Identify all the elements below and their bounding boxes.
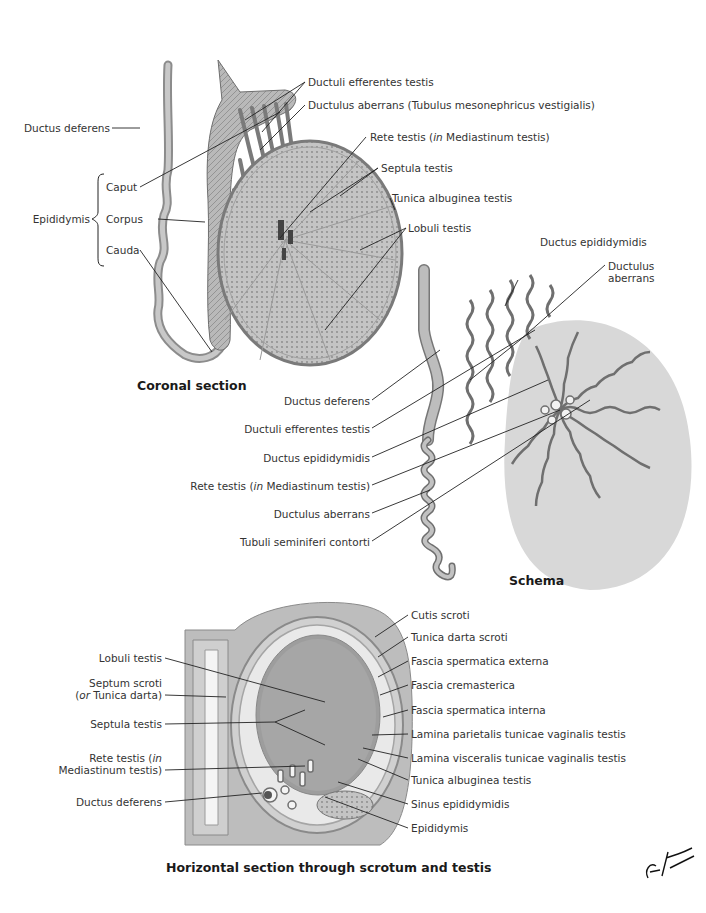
schema-illustration bbox=[424, 270, 692, 590]
label-h-lobuli-testis: Lobuli testis bbox=[40, 652, 162, 664]
label-schema-ductus-epididymidis: Ductus epididymidis bbox=[180, 452, 370, 464]
label-ductulus-aberrans-top-2: aberrans bbox=[608, 272, 655, 284]
label-septula-testis: Septula testis bbox=[381, 162, 453, 174]
label-ductus-epididymidis-top: Ductus epididymidis bbox=[540, 236, 647, 248]
caption-schema: Schema bbox=[509, 573, 564, 588]
label-ductulus-aberrans-top-1: Ductulus bbox=[608, 260, 654, 272]
horizontal-section-illustration bbox=[185, 602, 412, 845]
epididymis-brace bbox=[92, 174, 104, 266]
label-schema-ductuli-efferentes: Ductuli efferentes testis bbox=[180, 423, 370, 435]
label-tunica-darta-scroti: Tunica darta scroti bbox=[411, 631, 508, 643]
label-h-rete-testis-1: Rete testis (in bbox=[20, 752, 162, 764]
label-schema-ductus-deferens: Ductus deferens bbox=[180, 395, 370, 407]
netter-signature bbox=[647, 848, 694, 878]
label-h-septum-scroti-1: Septum scroti bbox=[40, 677, 162, 689]
label-h-septula-testis: Septula testis bbox=[40, 718, 162, 730]
label-schema-rete-testis: Rete testis (in Mediastinum testis) bbox=[150, 480, 370, 492]
label-lamina-parietalis: Lamina parietalis tunicae vaginalis test… bbox=[411, 728, 626, 740]
label-schema-ductulus-aberrans: Ductulus aberrans bbox=[180, 508, 370, 520]
label-h-epididymis: Epididymis bbox=[411, 822, 468, 834]
label-fascia-cremasterica: Fascia cremasterica bbox=[411, 679, 515, 691]
caption-horizontal-section: Horizontal section through scrotum and t… bbox=[166, 860, 492, 875]
label-h-ductus-deferens: Ductus deferens bbox=[40, 796, 162, 808]
label-cauda: Cauda bbox=[106, 244, 140, 256]
label-lobuli-testis: Lobuli testis bbox=[408, 222, 471, 234]
label-fascia-spermatica-externa: Fascia spermatica externa bbox=[411, 655, 549, 667]
label-tunica-albuginea-testis: Tunica albuginea testis bbox=[392, 192, 512, 204]
label-lamina-visceralis: Lamina visceralis tunicae vaginalis test… bbox=[411, 752, 626, 764]
label-rete-testis: Rete testis (in Mediastinum testis) bbox=[370, 131, 550, 143]
label-ductulus-aberrans-tubulus: Ductulus aberrans (Tubulus mesonephricus… bbox=[308, 99, 595, 111]
label-corpus: Corpus bbox=[106, 213, 143, 225]
caption-coronal-section: Coronal section bbox=[137, 378, 247, 393]
label-h-rete-testis-2: Mediastinum testis) bbox=[20, 764, 162, 776]
label-epididymis: Epididymis bbox=[30, 213, 90, 225]
label-ductus-deferens: Ductus deferens bbox=[20, 122, 110, 134]
label-ductuli-efferentes-testis: Ductuli efferentes testis bbox=[308, 76, 434, 88]
label-h-tunica-albuginea: Tunica albuginea testis bbox=[411, 774, 531, 786]
label-fascia-spermatica-interna: Fascia spermatica interna bbox=[411, 704, 546, 716]
label-cutis-scroti: Cutis scroti bbox=[411, 609, 470, 621]
label-caput: Caput bbox=[106, 181, 137, 193]
label-sinus-epididymidis: Sinus epididymidis bbox=[411, 798, 509, 810]
label-h-septum-scroti-2: (or Tunica darta) bbox=[40, 689, 162, 701]
label-schema-tubuli-seminiferi: Tubuli seminiferi contorti bbox=[180, 536, 370, 548]
